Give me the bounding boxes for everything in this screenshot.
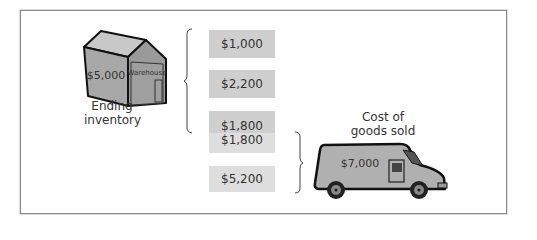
ending-inventory-label: Ending inventory — [84, 99, 140, 127]
brace-left-icon — [184, 29, 192, 133]
cogs-label: Cost of goods sold — [346, 110, 420, 138]
cost-box-1: $1,000 — [209, 30, 275, 58]
brace-right-icon — [295, 132, 303, 193]
van-icon: $7,000 — [315, 144, 447, 199]
cost-box-2: $2,200 — [209, 70, 275, 98]
van-value: $7,000 — [341, 157, 380, 170]
ending-inventory-line2: inventory — [84, 113, 140, 127]
cogs-line2: goods sold — [346, 124, 420, 138]
cost-box-3: $1,800 — [209, 111, 275, 133]
warehouse-icon: Warehouse $5,000 — [84, 31, 166, 106]
cost-box-4: $1,800 — [209, 133, 275, 153]
cost-box-5: $5,200 — [209, 166, 275, 192]
warehouse-sign: Warehouse — [128, 69, 167, 77]
cogs-line1: Cost of — [346, 110, 420, 124]
warehouse-value: $5,000 — [87, 69, 126, 82]
ending-inventory-line1: Ending — [84, 99, 140, 113]
